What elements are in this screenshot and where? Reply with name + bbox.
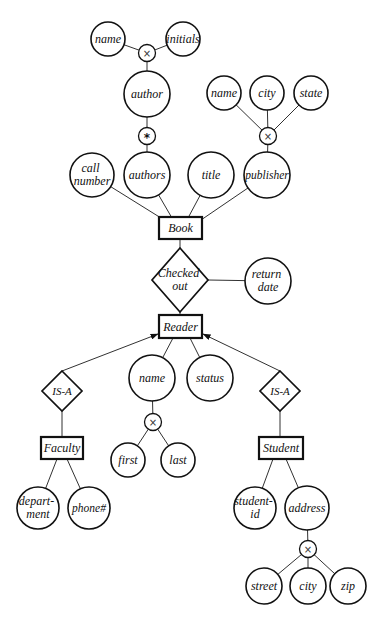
- attribute-department: depart- ment: [17, 487, 59, 529]
- set-operator-authors: *: [139, 128, 156, 146]
- product-operator-reader-name: ×: [145, 414, 162, 431]
- entity-label: Student: [263, 441, 300, 455]
- attribute-author: author: [124, 71, 170, 117]
- attribute-label: initials: [166, 32, 200, 46]
- attribute-publisher-city: city: [250, 76, 284, 110]
- attribute-label: last: [169, 453, 187, 467]
- attribute-label-line-1: call: [82, 161, 101, 175]
- relationship-isa-student: IS-A: [260, 371, 300, 411]
- product-icon: ×: [304, 544, 312, 555]
- entity-faculty: Faculty: [41, 437, 83, 459]
- attribute-label: zip: [340, 579, 355, 593]
- attribute-label-line-1: student-: [234, 494, 273, 508]
- attribute-label: publisher: [244, 169, 289, 182]
- attribute-zip: zip: [330, 568, 366, 604]
- attribute-label-line-2: ment: [26, 507, 50, 521]
- attribute-label-line-1: depart-: [19, 494, 54, 508]
- attribute-label: title: [202, 168, 221, 182]
- attribute-return-date: return date: [245, 258, 291, 304]
- relationship-checked-out: Checked out: [152, 248, 208, 312]
- attribute-reader-name: name: [129, 355, 175, 401]
- product-operator-address: ×: [300, 541, 317, 558]
- attribute-address: address: [285, 486, 329, 530]
- entity-student: Student: [259, 437, 303, 459]
- attribute-label: status: [196, 371, 224, 385]
- relationship-label-line-1: Checked: [158, 266, 200, 280]
- attribute-status: status: [187, 355, 233, 401]
- attribute-address-city: city: [290, 568, 326, 604]
- product-operator-author: ×: [139, 45, 156, 62]
- product-icon: ×: [143, 48, 151, 59]
- attribute-label: name: [211, 86, 238, 100]
- attribute-label: name: [139, 371, 166, 385]
- product-icon: ×: [149, 417, 157, 428]
- attribute-street: street: [246, 568, 282, 604]
- relationship-label: IS-A: [51, 385, 72, 397]
- attribute-author-name: name: [91, 22, 125, 56]
- relationship-label-line-2: out: [172, 279, 188, 293]
- product-icon: ×: [264, 131, 272, 142]
- entity-reader: Reader: [159, 315, 202, 338]
- asterisk-icon: *: [144, 131, 151, 145]
- product-operator-publisher: ×: [260, 128, 277, 145]
- attribute-last: last: [161, 443, 195, 477]
- er-diagram: name initials author call number authors…: [0, 0, 386, 621]
- attribute-first: first: [111, 443, 145, 477]
- attribute-label-line-2: number: [74, 174, 111, 188]
- attribute-publisher: publisher: [244, 152, 290, 198]
- attribute-student-id: student- id: [234, 487, 276, 529]
- attribute-label: city: [299, 579, 317, 593]
- attribute-title: title: [188, 152, 234, 198]
- attribute-label: name: [95, 32, 122, 46]
- attribute-label: street: [251, 579, 278, 593]
- attribute-author-initials: initials: [166, 22, 200, 56]
- entity-label: Book: [168, 221, 193, 235]
- attribute-label: author: [131, 87, 163, 101]
- relationship-isa-faculty: IS-A: [42, 371, 82, 411]
- attribute-label: city: [258, 86, 276, 100]
- attribute-label: state: [300, 86, 323, 100]
- attribute-label-line-1: return: [252, 267, 282, 281]
- attribute-authors: authors: [124, 152, 170, 198]
- entity-label: Faculty: [43, 441, 81, 455]
- entity-label: Reader: [162, 320, 198, 334]
- attribute-publisher-state: state: [294, 76, 328, 110]
- attribute-publisher-name: name: [207, 76, 241, 110]
- entity-book: Book: [159, 217, 202, 239]
- attribute-label: authors: [129, 168, 166, 182]
- attribute-label-line-2: id: [250, 507, 260, 521]
- attribute-label: address: [289, 501, 326, 515]
- attribute-call-number: call number: [70, 153, 114, 197]
- relationship-label: IS-A: [269, 385, 290, 397]
- attribute-label: phone#: [71, 502, 106, 515]
- attribute-phone: phone#: [68, 487, 110, 529]
- attribute-label-line-2: date: [258, 280, 279, 294]
- attribute-label: first: [118, 453, 138, 467]
